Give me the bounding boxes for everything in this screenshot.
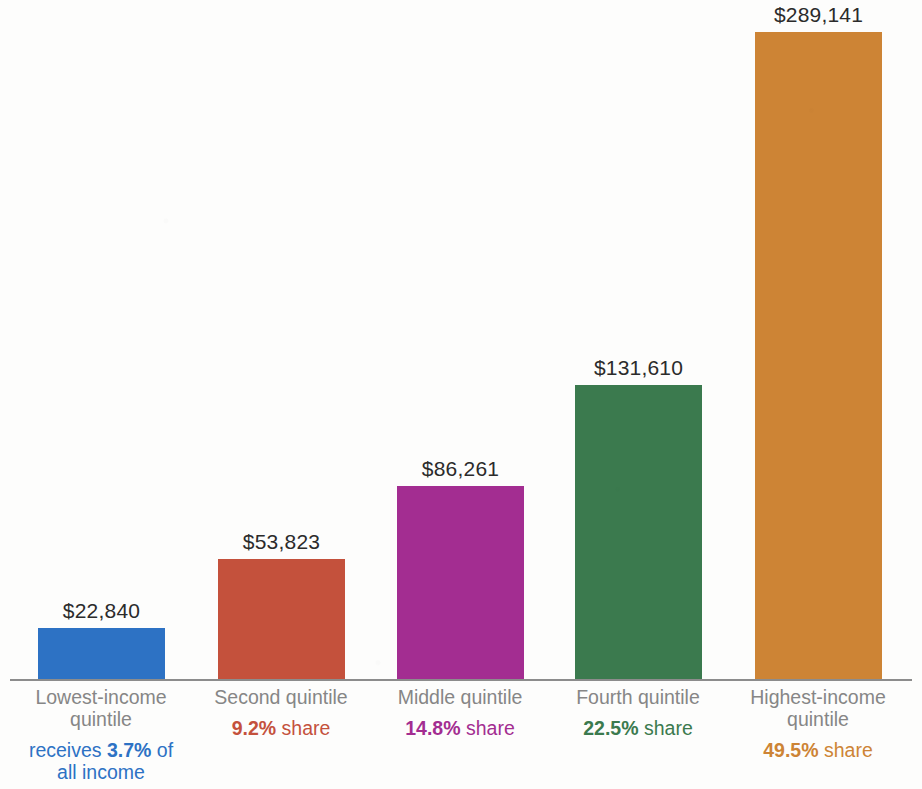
category-column: Fourth quintile22.5% share: [545, 684, 731, 739]
category-label: Middle quintile: [367, 686, 553, 708]
share-label: 22.5% share: [545, 717, 731, 739]
share-label: 49.5% share: [725, 739, 911, 761]
category-column: Second quintile9.2% share: [188, 684, 374, 739]
share-label: 9.2% share: [188, 717, 374, 739]
share-label: 14.8% share: [367, 717, 553, 739]
bar: [575, 385, 702, 679]
x-axis-baseline: [10, 679, 912, 681]
share-label: receives 3.7% ofall income: [8, 739, 194, 783]
category-column: Highest-incomequintile49.5% share: [725, 684, 911, 761]
bar-value-label: $22,840: [12, 599, 191, 623]
category-label: Fourth quintile: [545, 686, 731, 708]
category-label: Second quintile: [188, 686, 374, 708]
plot-area: $22,840$53,823$86,261$131,610$289,141: [0, 0, 922, 681]
bar-column: $53,823: [218, 559, 345, 679]
category-column: Middle quintile14.8% share: [367, 684, 553, 739]
bar-column: $131,610: [575, 385, 702, 679]
share-percent-value: 14.8%: [405, 717, 460, 739]
category-label: Highest-incomequintile: [725, 686, 911, 730]
bar-value-label: $86,261: [371, 457, 550, 481]
bar-value-label: $53,823: [192, 530, 371, 554]
bar-value-label: $131,610: [549, 356, 728, 380]
share-percent-value: 3.7%: [107, 739, 151, 761]
bar-column: $86,261: [397, 486, 524, 679]
category-column: Lowest-incomequintilereceives 3.7% ofall…: [8, 684, 194, 783]
share-percent-value: 22.5%: [583, 717, 638, 739]
bar: [755, 32, 882, 679]
category-label-row: Lowest-incomequintilereceives 3.7% ofall…: [0, 684, 922, 789]
bar-column: $289,141: [755, 32, 882, 679]
share-percent-value: 49.5%: [763, 739, 818, 761]
bar-column: $22,840: [38, 628, 165, 679]
bar-value-label: $289,141: [729, 3, 908, 27]
share-percent-value: 9.2%: [232, 717, 276, 739]
bar: [397, 486, 524, 679]
bar: [38, 628, 165, 679]
income-quintile-bar-chart: $22,840$53,823$86,261$131,610$289,141 Lo…: [0, 0, 922, 789]
category-label: Lowest-incomequintile: [8, 686, 194, 730]
bar: [218, 559, 345, 679]
